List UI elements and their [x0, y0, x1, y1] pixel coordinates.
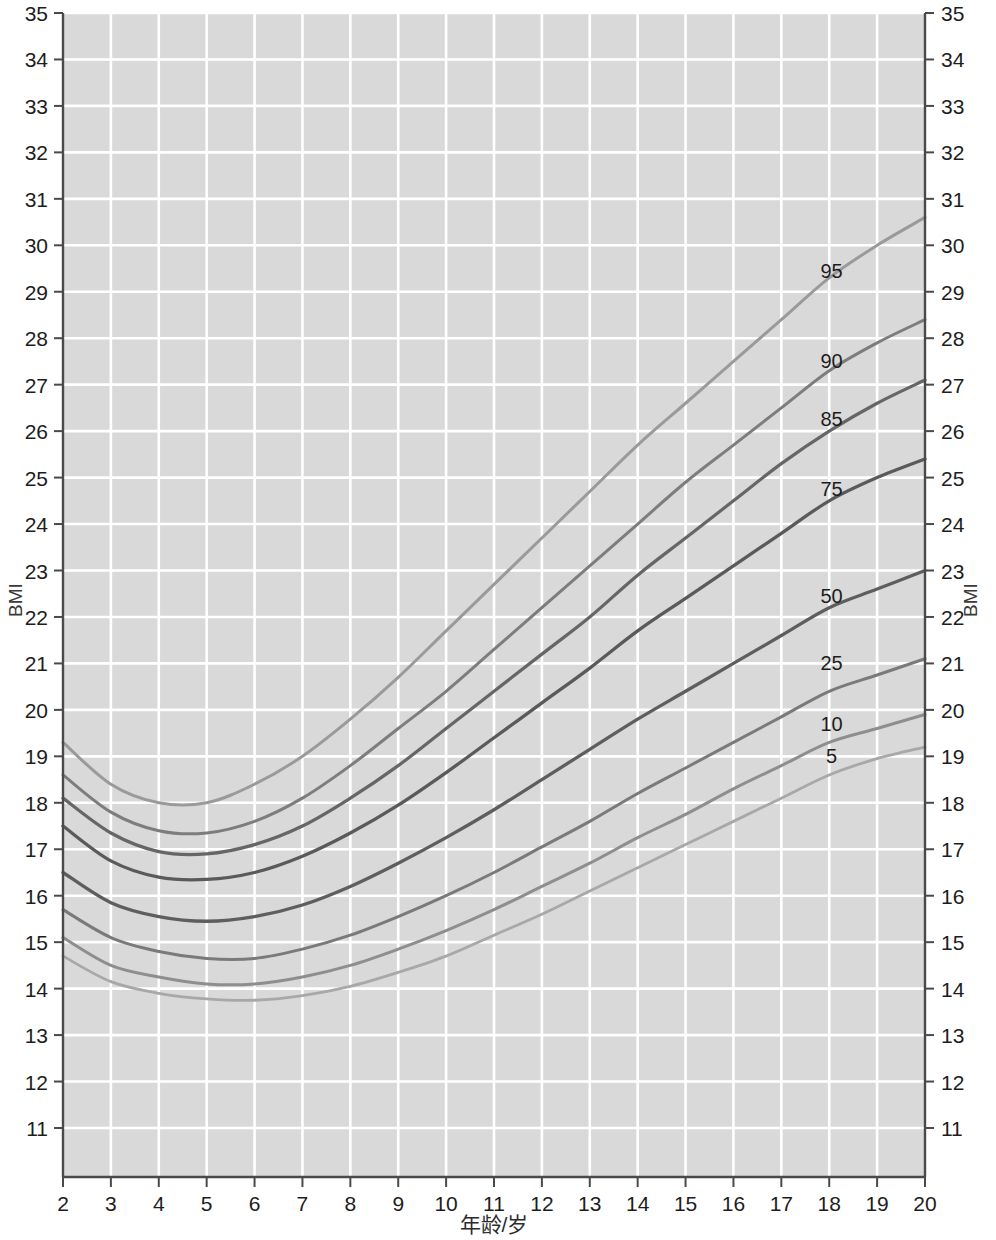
x-tick-label: 4: [153, 1192, 165, 1215]
y-tick-label-left: 11: [26, 1117, 48, 1140]
percentile-label-85: 85: [820, 408, 842, 430]
y-tick-label-right: 18: [941, 792, 964, 815]
y-tick-label-left: 18: [25, 792, 48, 815]
y-axis-title-left: BMI: [5, 583, 26, 617]
percentile-label-10: 10: [820, 713, 842, 735]
y-tick-label-right: 33: [941, 95, 964, 118]
x-tick-label: 3: [105, 1192, 117, 1215]
y-tick-label-left: 28: [25, 327, 48, 350]
y-tick-label-right: 25: [941, 467, 964, 490]
y-tick-label-left: 31: [25, 188, 48, 211]
y-tick-label-left: 20: [25, 699, 48, 722]
x-axis-title: 年龄/岁: [460, 1213, 529, 1236]
y-tick-label-left: 13: [25, 1024, 48, 1047]
x-tick-label: 7: [297, 1192, 309, 1215]
x-tick-label: 20: [913, 1192, 936, 1215]
y-tick-label-right: 35: [941, 2, 964, 25]
y-tick-label-left: 29: [25, 281, 48, 304]
y-tick-label-right: 32: [941, 141, 964, 164]
x-tick-label: 9: [392, 1192, 404, 1215]
y-tick-label-right: 20: [941, 699, 964, 722]
y-tick-label-right: 12: [941, 1071, 964, 1094]
x-tick-label: 11: [483, 1192, 505, 1215]
y-tick-label-left: 15: [25, 931, 48, 954]
chart-canvas: 959085755025105 111213141516171819202122…: [0, 0, 996, 1240]
y-tick-label-left: 30: [25, 234, 48, 257]
percentile-label-75: 75: [820, 478, 842, 500]
percentile-label-50: 50: [820, 585, 842, 607]
y-tick-label-right: 21: [941, 652, 964, 675]
percentile-label-5: 5: [826, 745, 837, 767]
x-tick-label: 8: [344, 1192, 356, 1215]
y-tick-label-right: 13: [941, 1024, 964, 1047]
y-tick-label-left: 21: [25, 652, 48, 675]
x-tick-label: 13: [578, 1192, 601, 1215]
x-tick-label: 14: [626, 1192, 650, 1215]
x-tick-label: 18: [818, 1192, 841, 1215]
y-tick-label-right: 17: [941, 838, 964, 861]
y-tick-label-right: 23: [941, 560, 964, 583]
y-tick-label-right: 30: [941, 234, 964, 257]
percentile-label-95: 95: [820, 260, 842, 282]
y-tick-label-left: 16: [25, 885, 48, 908]
y-tick-label-right: 19: [941, 745, 964, 768]
x-tick-label: 12: [530, 1192, 553, 1215]
y-tick-label-left: 25: [25, 467, 48, 490]
y-tick-label-right: 34: [941, 48, 965, 71]
y-tick-label-left: 24: [25, 513, 49, 536]
y-tick-label-left: 22: [25, 606, 48, 629]
x-tick-label: 10: [434, 1192, 457, 1215]
percentile-label-90: 90: [820, 350, 842, 372]
y-tick-label-right: 28: [941, 327, 964, 350]
y-tick-label-left: 23: [25, 560, 48, 583]
y-tick-label-left: 34: [25, 48, 49, 71]
y-tick-label-right: 24: [941, 513, 965, 536]
x-tick-label: 15: [674, 1192, 697, 1215]
y-tick-label-right: 11: [941, 1117, 963, 1140]
y-tick-label-left: 35: [25, 2, 48, 25]
y-tick-label-right: 14: [941, 978, 965, 1001]
y-tick-label-right: 16: [941, 885, 964, 908]
y-axis-title-right: BMI: [960, 583, 981, 617]
y-tick-label-left: 27: [25, 374, 48, 397]
y-tick-label-left: 26: [25, 420, 48, 443]
percentile-label-25: 25: [820, 652, 842, 674]
y-tick-label-left: 33: [25, 95, 48, 118]
x-tick-label: 17: [770, 1192, 793, 1215]
y-tick-label-left: 17: [25, 838, 48, 861]
y-tick-label-left: 14: [25, 978, 49, 1001]
x-tick-label: 5: [201, 1192, 213, 1215]
x-tick-label: 16: [722, 1192, 745, 1215]
y-tick-label-right: 31: [941, 188, 964, 211]
x-tick-label: 19: [865, 1192, 888, 1215]
y-tick-label-right: 15: [941, 931, 964, 954]
y-tick-label-right: 29: [941, 281, 964, 304]
y-tick-label-right: 26: [941, 420, 964, 443]
y-tick-label-left: 12: [25, 1071, 48, 1094]
x-tick-label: 2: [57, 1192, 69, 1215]
y-tick-label-left: 19: [25, 745, 48, 768]
x-tick-label: 6: [249, 1192, 261, 1215]
y-tick-label-right: 27: [941, 374, 964, 397]
bmi-growth-chart: 959085755025105 111213141516171819202122…: [0, 0, 996, 1240]
y-tick-label-left: 32: [25, 141, 48, 164]
